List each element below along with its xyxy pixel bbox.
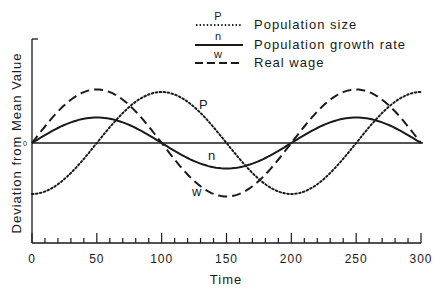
x-tick-label: 50 — [89, 252, 104, 266]
legend-label-population-size: Population size — [254, 17, 357, 32]
x-tick-label: 250 — [345, 252, 368, 266]
legend-key-P: P — [214, 10, 221, 22]
legend-label-real-wage: Real wage — [254, 55, 324, 70]
legend-key-n: n — [215, 30, 221, 42]
x-tick-label: 200 — [280, 252, 303, 266]
x-tick-labels: 050100150200250300 — [28, 252, 432, 266]
curve-label-w: w — [191, 184, 202, 199]
legend-label-population-growth-rate: Population growth rate — [254, 37, 406, 52]
x-axis-title: Time — [210, 272, 242, 287]
legend-key-w: w — [213, 48, 222, 60]
chart-svg: 050100150200250300 0 Time Deviation from… — [0, 0, 446, 295]
x-tick-label: 100 — [150, 252, 173, 266]
x-tick-label: 150 — [215, 252, 238, 266]
axes: 050100150200250300 0 — [23, 39, 433, 266]
curve-label-n: n — [208, 148, 215, 163]
x-ticks — [32, 233, 421, 243]
curve-label-P: P — [199, 97, 208, 112]
legend-item-population-size: P Population size — [196, 10, 357, 32]
x-tick-label: 300 — [409, 252, 432, 266]
legend-item-population-growth-rate: n Population growth rate — [195, 30, 406, 52]
y-axis-title: Deviation from Mean Value — [9, 53, 24, 234]
legend: P Population size n Population growth ra… — [195, 10, 406, 70]
x-tick-label: 0 — [28, 252, 36, 266]
chart: 050100150200250300 0 Time Deviation from… — [0, 0, 446, 295]
